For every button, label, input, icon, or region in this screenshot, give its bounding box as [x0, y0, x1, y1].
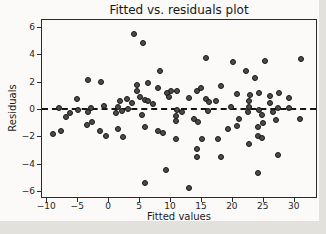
y-tick-mark — [37, 191, 41, 192]
scatter-point — [234, 123, 240, 129]
scatter-point — [194, 146, 200, 152]
scatter-point — [255, 124, 261, 130]
scatter-point — [155, 85, 161, 91]
scatter-point — [120, 134, 126, 140]
scatter-point — [179, 109, 185, 115]
x-tick-label: −10 — [33, 201, 59, 211]
scatter-point — [206, 99, 212, 105]
scatter-point — [58, 128, 64, 134]
y-tick-label: −4 — [7, 159, 35, 170]
scatter-point — [243, 68, 249, 74]
figure-canvas: Fitted vs. residuals plot Residuals Fitt… — [0, 0, 319, 221]
plot-area — [41, 19, 317, 198]
y-tick-label: 2 — [7, 77, 35, 88]
scatter-point — [163, 167, 169, 173]
y-tick-mark — [37, 164, 41, 165]
scatter-point — [131, 31, 137, 37]
scatter-point — [205, 108, 211, 114]
scatter-point — [203, 55, 209, 61]
scatter-point — [245, 109, 251, 115]
scatter-point — [255, 170, 261, 176]
scatter-point — [246, 141, 252, 147]
scatter-point — [247, 92, 253, 98]
scatter-point — [259, 135, 265, 141]
scatter-point — [230, 59, 236, 65]
scatter-point — [246, 98, 252, 104]
y-tick-label: 0 — [7, 104, 35, 115]
scatter-point — [234, 91, 240, 97]
scatter-point — [142, 180, 148, 186]
x-tick-label: 30 — [281, 201, 307, 211]
scatter-point — [75, 107, 81, 113]
x-tick-label: 25 — [250, 201, 276, 211]
scatter-point — [228, 104, 234, 110]
y-tick-mark — [37, 82, 41, 83]
scatter-point — [85, 109, 91, 115]
scatter-point — [174, 88, 180, 94]
y-tick-label: 4 — [7, 49, 35, 60]
scatter-point — [297, 116, 303, 122]
scatter-point — [56, 105, 62, 111]
scatter-point — [142, 124, 148, 130]
x-tick-label: 15 — [188, 201, 214, 211]
scatter-point — [134, 82, 140, 88]
scatter-point — [125, 106, 131, 112]
scatter-point — [259, 112, 265, 118]
scatter-point — [50, 131, 56, 137]
chart-title: Fitted vs. residuals plot — [41, 3, 317, 17]
scatter-point — [218, 83, 224, 89]
scatter-point — [267, 100, 273, 106]
scatter-point — [145, 80, 151, 86]
scatter-point — [252, 75, 258, 81]
y-tick-mark — [37, 136, 41, 137]
scatter-point — [186, 95, 192, 101]
x-axis-label: Fitted values — [41, 211, 317, 222]
scatter-point — [139, 112, 145, 118]
scatter-point — [215, 136, 221, 142]
scatter-point — [256, 90, 262, 96]
scatter-point — [103, 133, 109, 139]
scatter-point — [275, 152, 281, 158]
scatter-point — [260, 120, 266, 126]
scatter-point — [225, 126, 231, 132]
scatter-point — [101, 103, 107, 109]
scatter-point — [213, 98, 219, 104]
y-tick-label: −6 — [7, 186, 35, 197]
scatter-point — [166, 94, 172, 100]
scatter-point — [186, 185, 192, 191]
scatter-point — [115, 126, 121, 132]
x-tick-label: 20 — [219, 201, 245, 211]
scatter-point — [89, 119, 95, 125]
scatter-point — [98, 79, 104, 85]
scatter-point — [262, 58, 268, 64]
scatter-point — [194, 88, 200, 94]
scatter-point — [97, 128, 103, 134]
y-tick-label: 6 — [7, 22, 35, 33]
scatter-point — [286, 95, 292, 101]
scatter-point — [129, 100, 135, 106]
scatter-point — [157, 68, 163, 74]
scatter-point — [267, 93, 273, 99]
scatter-point — [160, 130, 166, 136]
scatter-point — [273, 117, 279, 123]
scatter-point — [195, 119, 201, 125]
scatter-point — [298, 56, 304, 62]
scatter-point — [84, 122, 90, 128]
y-tick-label: −2 — [7, 131, 35, 142]
scatter-point — [199, 136, 205, 142]
scatter-point — [63, 114, 69, 120]
scatter-point — [218, 154, 224, 160]
scatter-point — [150, 101, 156, 107]
screenshot-root: { "figure": { "background": "#fbfaf8", "… — [0, 0, 326, 234]
scatter-point — [173, 136, 179, 142]
scatter-point — [85, 77, 91, 83]
y-tick-mark — [37, 54, 41, 55]
scatter-point — [173, 118, 179, 124]
scatter-point — [113, 110, 119, 116]
scatter-point — [140, 40, 146, 46]
x-tick-label: 0 — [95, 201, 121, 211]
x-tick-label: −5 — [64, 201, 90, 211]
x-tick-label: 5 — [126, 201, 152, 211]
scatter-point — [270, 109, 276, 115]
y-tick-mark — [37, 27, 41, 28]
